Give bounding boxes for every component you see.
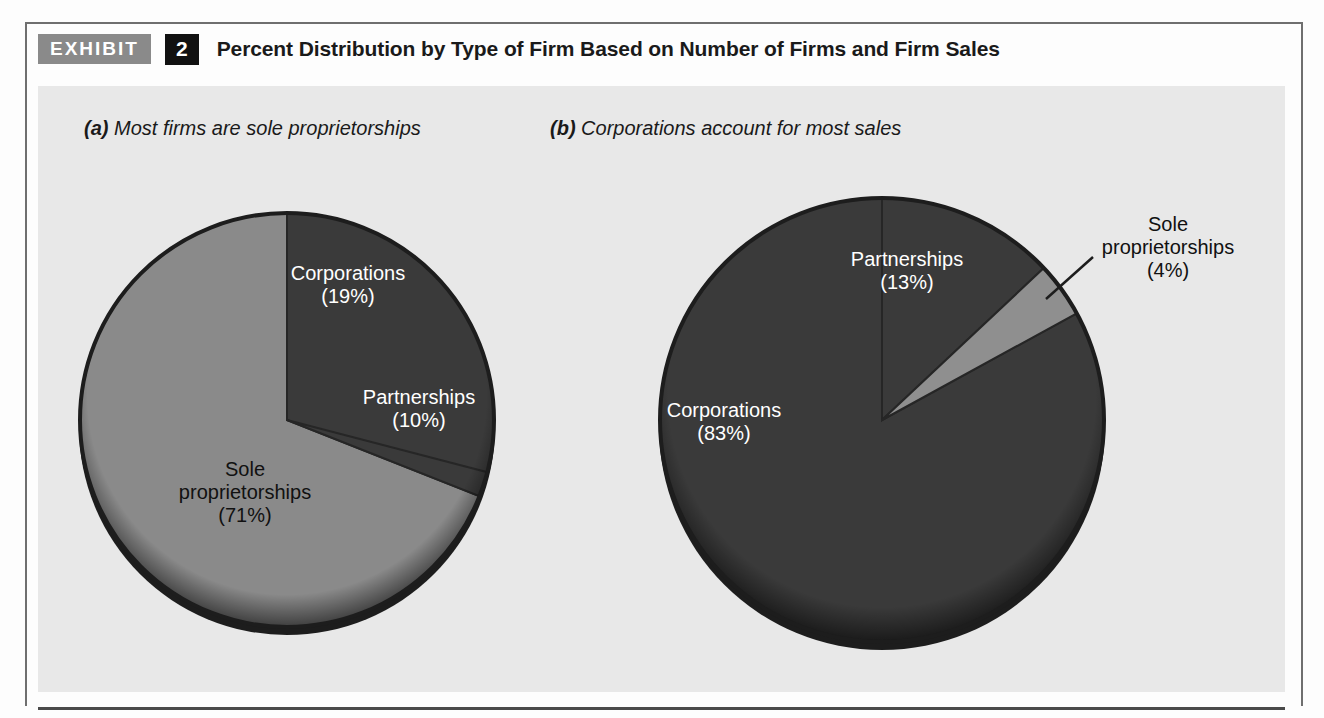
pie-a-label-sole-line2: proprietorships [179,481,311,504]
pie-b-label-corporations-value: (83%) [667,422,782,445]
pie-a-label-partnerships-value: (10%) [363,409,475,432]
panel-b-subtitle: (b) Corporations account for most sales [550,117,901,140]
exhibit-header: EXHIBIT 2 Percent Distribution by Type o… [38,32,1000,66]
exhibit-figure: EXHIBIT 2 Percent Distribution by Type o… [0,0,1324,718]
pie-b-label-partnerships-value: (13%) [851,271,963,294]
pie-a-label-corporations-value: (19%) [291,285,406,308]
chart-panel: (a) Most firms are sole proprietorships … [38,86,1285,692]
exhibit-badge: EXHIBIT [38,34,151,64]
panel-a-subtitle-text: Most firms are sole proprietorships [114,117,421,139]
panel-a-subtitle: (a) Most firms are sole proprietorships [84,117,421,140]
exhibit-number-badge: 2 [165,34,199,65]
pie-b-label-partnerships: Partnerships (13%) [851,248,963,294]
exhibit-title: Percent Distribution by Type of Firm Bas… [217,37,1000,61]
pie-a-label-sole-proprietorships: Sole proprietorships (71%) [179,458,311,527]
pie-a-label-partnerships-name: Partnerships [363,386,475,409]
pie-b-label-sole-line1: Sole [1102,213,1234,236]
bottom-rule [38,707,1285,710]
panel-b-tag: (b) [550,117,576,139]
pie-a-label-sole-line1: Sole [179,458,311,481]
pie-b-label-sole-proprietorships: Sole proprietorships (4%) [1102,213,1234,282]
pie-a-label-corporations: Corporations (19%) [291,262,406,308]
pie-b-label-corporations: Corporations (83%) [667,399,782,445]
pie-b-label-sole-line2: proprietorships [1102,236,1234,259]
pie-a-label-corporations-name: Corporations [291,262,406,285]
pie-a-label-partnerships: Partnerships (10%) [363,386,475,432]
pie-b-label-sole-value: (4%) [1102,259,1234,282]
panel-a-tag: (a) [84,117,108,139]
pie-b-label-corporations-name: Corporations [667,399,782,422]
panel-b-subtitle-text: Corporations account for most sales [581,117,901,139]
pie-b-label-partnerships-name: Partnerships [851,248,963,271]
pie-a-label-sole-value: (71%) [179,504,311,527]
